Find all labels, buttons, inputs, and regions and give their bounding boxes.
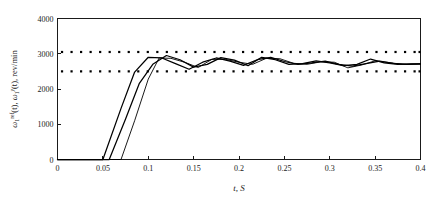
reference-dot	[394, 70, 396, 72]
x-tick-label: 0.15	[187, 164, 201, 173]
reference-dot	[175, 51, 177, 53]
y-tick-label: 1000	[38, 120, 54, 129]
reference-dot	[328, 70, 330, 72]
reference-dot	[280, 51, 282, 53]
reference-dot	[223, 70, 225, 72]
reference-dot	[375, 51, 377, 53]
x-tick-label: 0.35	[368, 164, 382, 173]
reference-dot	[118, 51, 120, 53]
reference-dot	[271, 51, 273, 53]
reference-dot	[109, 51, 111, 53]
reference-dot	[366, 51, 368, 53]
reference-dot	[299, 51, 301, 53]
reference-dot	[166, 70, 168, 72]
reference-dot	[252, 51, 254, 53]
reference-dot	[385, 51, 387, 53]
reference-dot	[418, 70, 420, 72]
reference-dot	[318, 51, 320, 53]
reference-dot	[356, 70, 358, 72]
reference-dot	[223, 51, 225, 53]
y-tick-label: 3000	[38, 50, 54, 59]
reference-dot	[90, 70, 92, 72]
reference-dot	[328, 51, 330, 53]
reference-dot	[337, 51, 339, 53]
reference-dot	[137, 51, 139, 53]
reference-dot	[70, 70, 72, 72]
x-tick-label: 0.25	[277, 164, 291, 173]
speed-response-chart: 00.050.10.150.20.250.30.350.4 0100020003…	[0, 0, 435, 197]
x-axis-title: t, S	[233, 183, 245, 193]
reference-dot	[128, 70, 130, 72]
reference-dot	[299, 70, 301, 72]
reference-dot	[385, 70, 387, 72]
reference-dot	[347, 51, 349, 53]
reference-dot	[318, 70, 320, 72]
reference-dot	[90, 51, 92, 53]
reference-dot	[280, 70, 282, 72]
x-tick-label: 0.1	[143, 164, 153, 173]
reference-dot	[194, 70, 196, 72]
reference-dot	[261, 51, 263, 53]
x-tick-label: 0.4	[416, 164, 426, 173]
reference-dot	[156, 70, 158, 72]
reference-dot	[271, 70, 273, 72]
reference-dot	[137, 70, 139, 72]
reference-dot	[309, 51, 311, 53]
reference-dot	[232, 51, 234, 53]
reference-dot	[109, 70, 111, 72]
reference-dot	[70, 51, 72, 53]
reference-dot	[418, 51, 420, 53]
reference-dot	[232, 70, 234, 72]
reference-dot	[213, 51, 215, 53]
reference-dot	[61, 51, 63, 53]
reference-dot	[252, 70, 254, 72]
reference-dot	[309, 70, 311, 72]
reference-dot	[61, 70, 63, 72]
reference-dot	[128, 51, 130, 53]
reference-dot	[261, 70, 263, 72]
x-tick-label: 0.05	[96, 164, 110, 173]
reference-dot	[99, 51, 101, 53]
y-tick-label: 0	[50, 156, 54, 165]
reference-dot	[414, 70, 416, 72]
x-tick-label: 0	[56, 164, 60, 173]
reference-dot	[242, 51, 244, 53]
reference-dot	[80, 51, 82, 53]
x-tick-label: 0.3	[325, 164, 335, 173]
reference-dot	[290, 51, 292, 53]
reference-dot	[194, 51, 196, 53]
reference-dot	[156, 51, 158, 53]
reference-dot	[290, 70, 292, 72]
reference-dot	[394, 51, 396, 53]
reference-dot	[404, 70, 406, 72]
reference-dot	[242, 70, 244, 72]
reference-dot	[404, 51, 406, 53]
reference-dot	[118, 70, 120, 72]
reference-dot	[337, 70, 339, 72]
y-tick-label: 2000	[38, 85, 54, 94]
reference-dot	[80, 70, 82, 72]
reference-dot	[414, 51, 416, 53]
reference-dot	[204, 51, 206, 53]
reference-dot	[166, 51, 168, 53]
reference-dot	[347, 70, 349, 72]
reference-dot	[185, 51, 187, 53]
reference-dot	[175, 70, 177, 72]
reference-dot	[204, 70, 206, 72]
reference-dot	[99, 70, 101, 72]
reference-dot	[147, 51, 149, 53]
reference-dot	[185, 70, 187, 72]
y-tick-label: 4000	[38, 15, 54, 24]
x-tick-label: 0.2	[234, 164, 244, 173]
reference-dot	[375, 70, 377, 72]
reference-dot	[356, 51, 358, 53]
reference-dot	[366, 70, 368, 72]
reference-dot	[213, 70, 215, 72]
